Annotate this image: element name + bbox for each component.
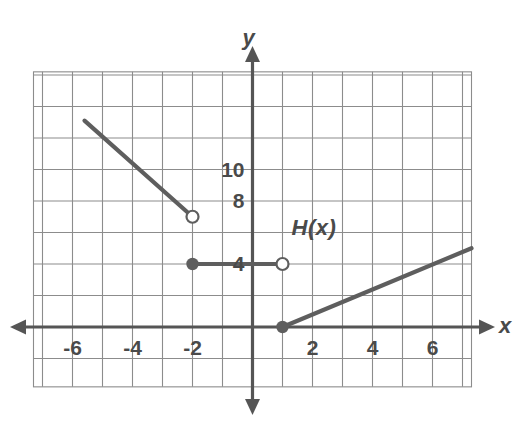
x-tick-label: 6: [417, 337, 449, 358]
y-tick-label: 8: [223, 190, 245, 211]
x-tick-label: -4: [117, 337, 149, 358]
coordinate-plane: [0, 0, 519, 423]
graph-figure: y x H(x) -6-4-2246 4810: [0, 0, 519, 423]
x-tick-label: -6: [57, 337, 89, 358]
y-tick-label: 4: [223, 253, 245, 274]
function-curves: [85, 121, 472, 327]
x-tick-label: 2: [297, 337, 329, 358]
x-axis-label: x: [499, 315, 511, 337]
x-tick-label: -2: [177, 337, 209, 358]
axis-lines: [10, 46, 495, 415]
x-tick-label: 4: [357, 337, 389, 358]
function-label: H(x): [292, 217, 337, 239]
y-tick-label: 10: [207, 159, 245, 180]
y-axis-label: y: [243, 27, 255, 49]
